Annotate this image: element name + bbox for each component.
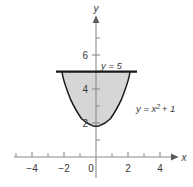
curve-label-parabola: y = x2+ 1 bbox=[135, 103, 175, 115]
svg-text:y = x2+ 1: y = x2+ 1 bbox=[135, 103, 175, 115]
y-axis-label: y bbox=[93, 3, 100, 14]
y-tick-label-4: 4 bbox=[82, 84, 88, 95]
x-axis-minor-ticks bbox=[16, 153, 144, 157]
x-tick-label-2: 2 bbox=[125, 163, 131, 174]
y-tick-label-6: 6 bbox=[82, 50, 88, 61]
curve-label-base: y = x bbox=[135, 103, 158, 114]
graph-figure: −4 −2 0 2 4 6 4 2 x y y = 5 y = x2+ 1 bbox=[0, 0, 193, 187]
parabola-area-chart: −4 −2 0 2 4 6 4 2 x y y = 5 y = x2+ 1 bbox=[0, 0, 193, 187]
x-axis-label: x bbox=[181, 152, 188, 163]
x-tick-label-4: 4 bbox=[157, 163, 163, 174]
line-label-y5: y = 5 bbox=[100, 60, 123, 71]
x-tick-label--2: −2 bbox=[58, 163, 70, 174]
x-tick-label-0: 0 bbox=[88, 163, 94, 174]
y-axis-arrow bbox=[93, 16, 100, 24]
x-tick-label--4: −4 bbox=[26, 163, 38, 174]
y-tick-label-2: 2 bbox=[82, 118, 88, 129]
x-axis-arrow bbox=[171, 154, 179, 161]
curve-label-exponent: 2 bbox=[155, 103, 160, 110]
curve-label-tail: + 1 bbox=[162, 103, 175, 114]
